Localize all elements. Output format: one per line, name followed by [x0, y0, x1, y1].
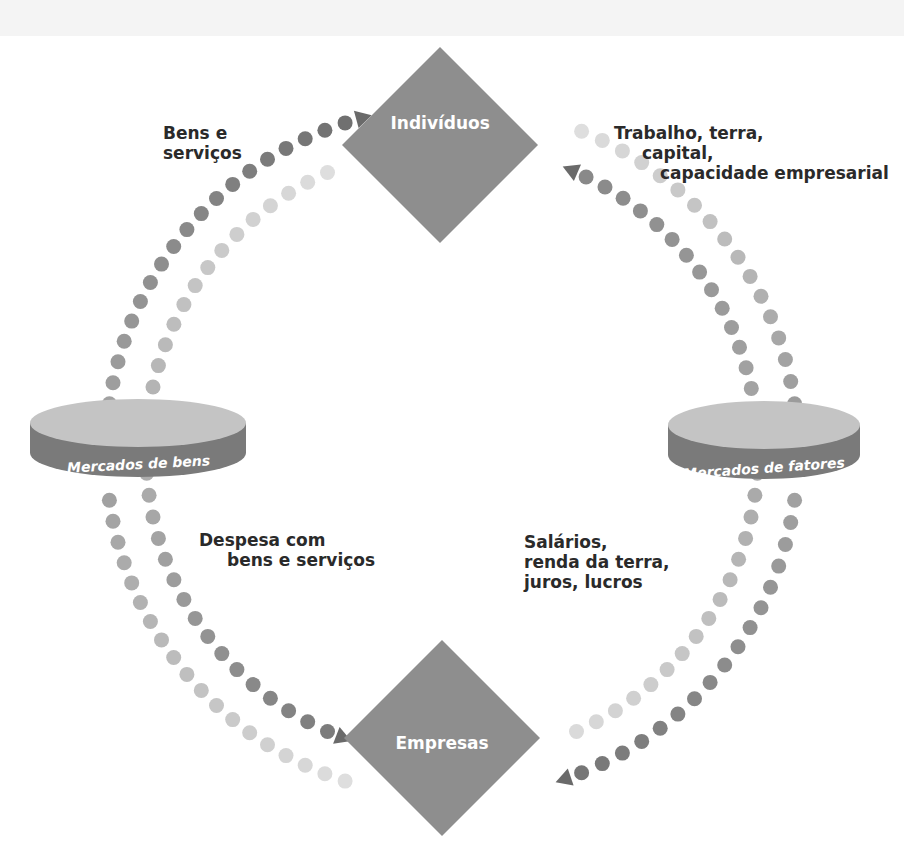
flow-dot [166, 317, 181, 332]
spending-label: Despesa com bens e serviços [199, 530, 375, 570]
flow-dot [703, 675, 718, 690]
flow-dot [106, 375, 121, 390]
flow-dot [229, 662, 244, 677]
flow-dot [179, 667, 194, 682]
flow-dot [260, 152, 275, 167]
flow-dot [176, 592, 191, 607]
flow-dot [200, 629, 215, 644]
flow-dot [744, 381, 759, 396]
flow-dot [133, 595, 148, 610]
flow-dot [338, 774, 353, 789]
flow-dot [675, 646, 690, 661]
flow-dot [569, 724, 584, 739]
flow-dot [281, 703, 296, 718]
flow-dot [633, 203, 648, 218]
flow-dot [263, 691, 278, 706]
flow-dot [214, 646, 229, 661]
flow-dot [279, 748, 294, 763]
flow-dot [692, 265, 707, 280]
flow-dot [263, 198, 278, 213]
flow-dot [747, 488, 762, 503]
flow-dot [665, 232, 680, 247]
flow-dot [679, 248, 694, 263]
factors-label: Trabalho, terra, capital, capacidade emp… [614, 123, 889, 183]
flow-dot [194, 683, 209, 698]
flow-dot [151, 358, 166, 373]
flow-dot [731, 552, 746, 567]
flow-dot [649, 217, 664, 232]
flow-dot [200, 260, 215, 275]
flow-dot [158, 552, 173, 567]
flow-dot [595, 756, 610, 771]
flow-dot [608, 703, 623, 718]
flow-dot [763, 309, 778, 324]
cylinder-top [668, 401, 860, 449]
flow-dot [166, 239, 181, 254]
flow-dot [713, 592, 728, 607]
flow-dot [246, 677, 261, 692]
flow-dot [124, 575, 139, 590]
flow-dot [787, 493, 802, 508]
flow-dot [143, 275, 158, 290]
flow-dot [111, 535, 126, 550]
flow-dot [754, 600, 769, 615]
flow-dot [763, 580, 778, 595]
flow-dot [124, 314, 139, 329]
flow-dot [133, 294, 148, 309]
flow-dot [209, 698, 224, 713]
flow-dot [188, 278, 203, 293]
flow-dot [300, 175, 315, 190]
flow-dot [715, 301, 730, 316]
flow-dot [320, 724, 335, 739]
flow-dot [117, 334, 132, 349]
flow-dot [703, 214, 718, 229]
income-label: Salários, renda da terra, juros, lucros [524, 532, 670, 592]
flow-dot [783, 374, 798, 389]
flow-dot [574, 124, 589, 139]
flow-dot [102, 493, 117, 508]
flow-dot [279, 141, 294, 156]
flow-dot [743, 620, 758, 635]
flow-dot [739, 360, 754, 375]
flow-dot [626, 691, 641, 706]
flow-dot [225, 177, 240, 192]
flow-dot [260, 737, 275, 752]
flow-dot [598, 180, 613, 195]
flow-dot [574, 765, 589, 780]
flow-dot [317, 123, 332, 138]
flow-dot [194, 206, 209, 221]
flow-dot [214, 243, 229, 258]
flow-dot [731, 250, 746, 265]
firms-label: Empresas [396, 733, 489, 753]
flow-dot [117, 555, 132, 570]
flow-dot [771, 559, 786, 574]
flow-dot [589, 714, 604, 729]
flow-dot [724, 320, 739, 335]
flow-dot [166, 650, 181, 665]
arrow-head-icon [563, 165, 581, 182]
flow-dot [229, 227, 244, 242]
flow-dot [778, 352, 793, 367]
flow-dot [731, 639, 746, 654]
flow-dot [188, 611, 203, 626]
flow-dot [298, 758, 313, 773]
flow-dot [579, 170, 594, 185]
flow-dot [595, 133, 610, 148]
goods-services-label: Bens e serviços [163, 123, 242, 163]
households-diamond [342, 47, 538, 243]
flow-dot [717, 658, 732, 673]
flow-dot [687, 691, 702, 706]
flow-dot [106, 514, 121, 529]
flow-dot [616, 191, 631, 206]
flow-dot [704, 282, 719, 297]
flow-dot [689, 629, 704, 644]
flow-dot [176, 297, 191, 312]
flow-dot [143, 614, 158, 629]
flow-dot [300, 714, 315, 729]
flow-dot [317, 766, 332, 781]
flow-dot [634, 734, 649, 749]
flow-dot [660, 662, 675, 677]
flow-dot [298, 131, 313, 146]
flow-dot [320, 165, 335, 180]
flow-dot [166, 572, 181, 587]
